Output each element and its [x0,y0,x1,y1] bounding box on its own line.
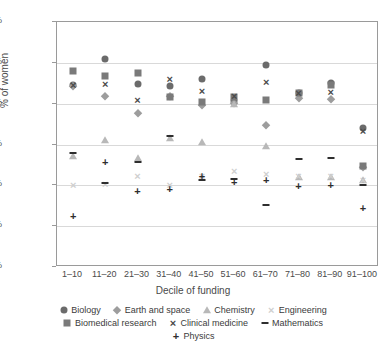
data-point [359,177,367,184]
y-tick-label: 40% [0,16,2,25]
data-point [69,82,77,90]
legend-item-engineering[interactable]: ×Engineering [267,305,327,315]
data-point [102,55,109,62]
data-point [359,162,366,169]
data-point [198,76,205,83]
data-point: + [360,203,366,213]
data-point [134,81,141,88]
legend-label: Clinical medicine [180,318,248,328]
data-point [295,94,303,102]
scatter-chart: % of women 40%35%30%25%20%15%10% ×××××××… [0,0,386,353]
data-point: + [199,171,205,181]
data-point [70,152,77,154]
square-marker-icon [63,319,72,328]
legend-item-chemistry[interactable]: Chemistry [202,305,255,315]
data-point: + [102,157,108,167]
data-point [295,90,302,97]
data-point: × [360,175,366,185]
data-point [359,163,367,171]
x-tick-label: 61–70 [253,269,278,279]
y-tick-label: 30% [0,98,2,107]
data-point: × [199,171,205,181]
x-tick-label: 11–20 [92,269,116,279]
gridline [57,226,377,227]
legend-item-earth-and-space[interactable]: Earth and space [113,305,191,315]
data-point: × [263,169,269,179]
legend-label: Engineering [279,305,327,315]
data-point: + [263,175,269,185]
data-point: × [102,79,108,89]
gridline [57,104,377,105]
legend-label: Mathematics [272,318,323,328]
circle-marker-icon [59,306,68,315]
data-point: × [295,171,301,181]
data-point [262,121,270,129]
triangle-marker-icon [202,306,211,315]
data-point: × [166,74,172,84]
data-point [359,125,366,132]
legend-label: Biomedical research [75,318,157,328]
data-point [69,152,77,159]
data-point [101,136,109,143]
y-tick-label: 25% [0,139,2,148]
data-point [134,110,142,118]
data-point [70,81,77,88]
data-point: × [295,88,301,98]
data-point [231,94,238,101]
data-point: + [70,211,76,221]
data-point [134,155,142,162]
legend-row: +Physics [0,331,386,341]
y-tick-mark [52,266,56,267]
legend-label: Physics [183,331,214,341]
legend: BiologyEarth and spaceChemistry×Engineer… [0,305,386,344]
data-point: × [231,166,237,176]
y-tick-label: 35% [0,57,2,66]
data-point [166,92,174,100]
legend-row: Biomedical research×Clinical medicineMat… [0,318,386,328]
data-point [327,173,335,180]
data-point [198,179,205,181]
data-point [134,69,141,76]
data-point [327,157,334,159]
data-point [198,101,206,109]
data-point [295,90,302,97]
dash-marker-icon [260,319,269,328]
x-tick-label: 41–50 [188,269,213,279]
data-point [262,142,270,149]
x-axis-title: Decile of funding [0,285,386,296]
data-point: × [327,171,333,181]
plus-marker-icon: + [171,332,180,341]
legend-item-biology[interactable]: Biology [59,305,101,315]
data-point: × [360,126,366,136]
gridline [57,145,377,146]
data-point [166,94,173,101]
data-point [102,72,109,79]
gridline [57,63,377,64]
y-tick-label: 15% [0,220,2,229]
data-point [327,81,334,88]
legend-label: Earth and space [125,305,191,315]
x-tick-label: 71–80 [285,269,310,279]
data-point [102,182,109,184]
legend-item-biomedical-research[interactable]: Biomedical research [63,318,157,328]
legend-item-mathematics[interactable]: Mathematics [260,318,323,328]
x-tick-label: 51–60 [221,269,246,279]
data-point: × [231,91,237,101]
legend-item-physics[interactable]: +Physics [171,331,214,341]
x-dark-marker-icon: × [168,319,177,328]
data-point [327,95,335,103]
data-point [101,92,109,100]
gridline [57,185,377,186]
data-point: × [70,80,76,90]
data-point [166,134,174,141]
data-point [263,204,270,206]
y-tick-label: 20% [0,179,2,188]
x-light-marker-icon: × [267,306,276,315]
x-tick-label: 1–10 [62,269,82,279]
data-point: × [199,86,205,96]
legend-item-clinical-medicine[interactable]: ×Clinical medicine [168,318,248,328]
data-point: × [327,87,333,97]
data-point [327,80,334,87]
data-point [295,158,302,160]
x-tick-label: 31–40 [156,269,181,279]
